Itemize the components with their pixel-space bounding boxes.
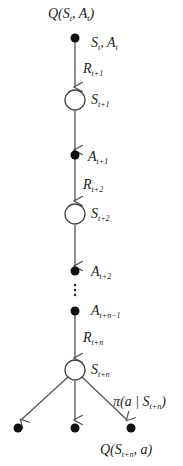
state-node-n7 bbox=[65, 360, 85, 380]
ellipsis-dot bbox=[74, 294, 76, 296]
state-node-n4 bbox=[65, 204, 85, 224]
leaf-node-3 bbox=[127, 424, 136, 433]
top-q-label: Q(St, At) bbox=[48, 6, 95, 23]
label-n2: St+1 bbox=[91, 92, 110, 109]
label-n7: St+n bbox=[91, 362, 110, 379]
reward-label-1: Rt+1 bbox=[82, 61, 103, 78]
edge-n7-leaf1 bbox=[21, 377, 68, 420]
label-n6: At+n−1 bbox=[90, 303, 121, 320]
label-n5: At+2 bbox=[90, 264, 111, 281]
action-node-n6 bbox=[71, 307, 80, 316]
action-node-n3 bbox=[71, 151, 80, 160]
label-n1: St, At bbox=[91, 35, 119, 52]
label-n3: At+1 bbox=[87, 149, 108, 166]
bottom-q-label: Q(St+n, a) bbox=[100, 442, 152, 459]
reward-label-2: Rt+2 bbox=[82, 177, 103, 194]
action-node-n1 bbox=[71, 34, 80, 43]
policy-label: π(a | St+n) bbox=[113, 394, 166, 411]
ellipsis-dot bbox=[74, 284, 76, 286]
leaf-node-1 bbox=[14, 424, 23, 433]
label-n4: St+2 bbox=[91, 206, 110, 223]
action-node-n5 bbox=[71, 267, 80, 276]
ellipsis-dot bbox=[74, 289, 76, 291]
leaf-node-2 bbox=[71, 424, 80, 433]
backup-diagram: Q(St, At) St, At St+1 At+1 St+2 At+2 At+… bbox=[0, 0, 183, 466]
reward-label-n: Rt+n bbox=[82, 330, 103, 347]
state-node-n2 bbox=[65, 90, 85, 110]
